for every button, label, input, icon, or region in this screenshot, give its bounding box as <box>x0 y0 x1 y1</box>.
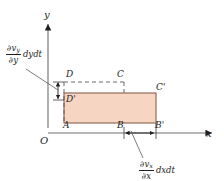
horizontal-strain-tail: dxdt <box>156 165 175 175</box>
horizontal-strain-label: ∂vx ∂x dxdt <box>139 160 175 180</box>
x-axis-label: x <box>206 129 212 139</box>
diagram-vector-layer <box>0 0 224 181</box>
y-axis-label: y <box>44 10 50 20</box>
vertex-B-prime-mark: ' <box>162 120 164 130</box>
vertex-B-prime-letter: B <box>155 120 162 130</box>
deformed-element-rect <box>64 93 156 123</box>
origin-label: O <box>40 136 48 146</box>
vertical-strain-fraction: ∂vy ∂y <box>6 44 21 64</box>
vertical-strain-tail: dydt <box>23 49 42 59</box>
vertex-A: A <box>63 121 70 130</box>
vertical-strain-denominator: ∂y <box>8 55 19 64</box>
horizontal-strain-fraction: ∂vx ∂x <box>139 160 154 180</box>
vertex-D-prime-mark: ' <box>73 94 75 104</box>
horizontal-strain-denominator: ∂x <box>141 171 152 180</box>
horizontal-strain-numerator: ∂vx <box>139 160 154 170</box>
vertex-D-prime: D' <box>66 95 76 104</box>
vertical-strain-numerator: ∂vy <box>6 44 21 54</box>
vertex-C: C <box>117 70 124 79</box>
vertex-C-prime: C' <box>156 83 165 92</box>
vertex-D: D <box>66 70 73 79</box>
figure-canvas: y x O A B B' C C' D D' ∂vy ∂y dydt ∂vx ∂… <box>0 0 224 181</box>
vertical-strain-label: ∂vy ∂y dydt <box>6 44 42 64</box>
y-strain-leader-line <box>26 69 58 90</box>
vertex-C-prime-mark: ' <box>163 82 165 92</box>
x-strain-leader-line <box>131 131 143 158</box>
vertex-C-prime-letter: C <box>156 82 163 92</box>
vertex-B-prime: B' <box>155 121 164 130</box>
vertex-B: B <box>117 121 124 130</box>
